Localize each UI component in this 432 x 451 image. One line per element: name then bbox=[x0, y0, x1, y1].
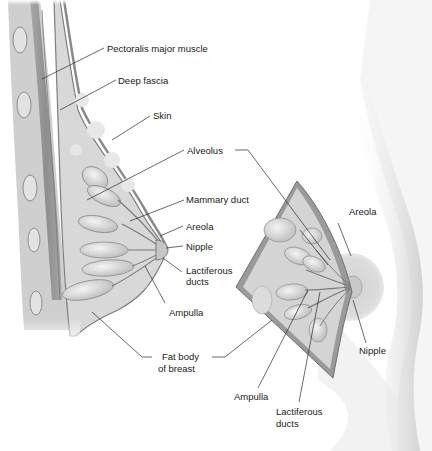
label-ampulla-right: Ampulla bbox=[234, 391, 268, 402]
label-nipple-left: Nipple bbox=[186, 241, 213, 252]
label-areola-left: Areola bbox=[186, 221, 213, 232]
label-lactiferous-ducts-left-line1: Lactiferous bbox=[186, 265, 232, 276]
label-lactiferous-ducts-left-line2: ducts bbox=[186, 276, 209, 287]
right-cutaway-wedge bbox=[236, 181, 352, 378]
label-alveolus: Alveolus bbox=[187, 145, 223, 156]
right-body-silhouette bbox=[318, 0, 432, 451]
label-nipple-right: Nipple bbox=[359, 345, 386, 356]
label-deep-fascia: Deep fascia bbox=[118, 75, 168, 86]
diagram-canvas bbox=[0, 0, 432, 451]
breast-anatomy-diagram: Pectoralis major muscle Deep fascia Skin… bbox=[0, 0, 432, 451]
label-areola-right: Areola bbox=[349, 206, 376, 217]
label-fat-body-line2: of breast bbox=[158, 363, 195, 374]
label-fat-body-line1: Fat body bbox=[162, 351, 199, 362]
label-pectoralis-major-muscle: Pectoralis major muscle bbox=[107, 43, 208, 54]
label-ampulla-left: Ampulla bbox=[169, 307, 203, 318]
label-lactiferous-ducts-right-line2: ducts bbox=[276, 418, 299, 429]
label-mammary-duct: Mammary duct bbox=[186, 194, 249, 205]
label-skin: Skin bbox=[153, 110, 171, 121]
label-lactiferous-ducts-right-line1: Lactiferous bbox=[276, 406, 322, 417]
